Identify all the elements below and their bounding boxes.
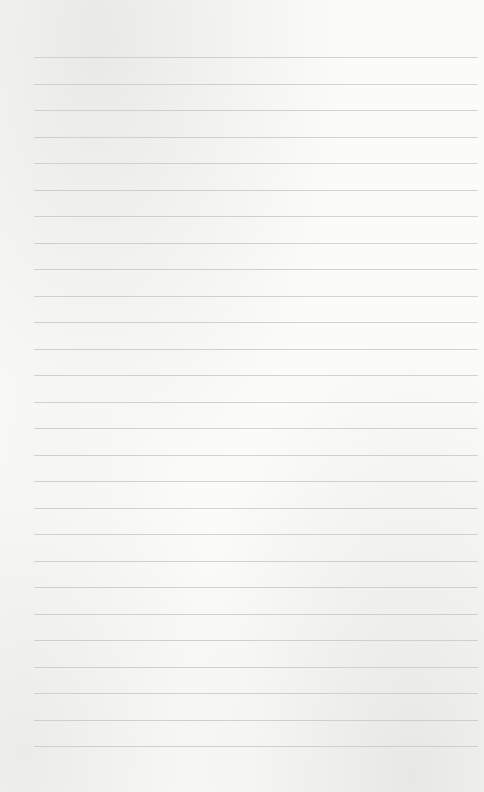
ruled-line: [34, 693, 478, 694]
ruled-line: [34, 57, 478, 58]
ruled-line: [34, 481, 478, 482]
ruled-line: [34, 296, 478, 297]
ruled-line: [34, 561, 478, 562]
ruled-line: [34, 746, 478, 747]
ruled-line: [34, 534, 478, 535]
ruled-line: [34, 110, 478, 111]
ruled-line: [34, 349, 478, 350]
ruled-line: [34, 667, 478, 668]
ruled-line: [34, 322, 478, 323]
ruled-line: [34, 428, 478, 429]
ruled-line: [34, 587, 478, 588]
ruled-line: [34, 375, 478, 376]
ruled-line: [34, 720, 478, 721]
ruled-line: [34, 402, 478, 403]
ruled-line: [34, 137, 478, 138]
lined-paper-page: [0, 0, 484, 792]
ruled-line: [34, 455, 478, 456]
ruled-line: [34, 84, 478, 85]
ruled-line: [34, 269, 478, 270]
ruled-line: [34, 243, 478, 244]
ruled-line: [34, 614, 478, 615]
ruled-line: [34, 163, 478, 164]
ruled-line: [34, 216, 478, 217]
ruled-line: [34, 508, 478, 509]
ruled-line: [34, 190, 478, 191]
ruled-line: [34, 640, 478, 641]
